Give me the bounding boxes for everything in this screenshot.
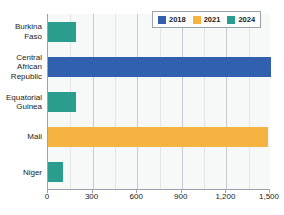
x-axis-tick	[92, 190, 93, 193]
legend-item-2021: 2021	[193, 16, 221, 24]
x-axis-tick	[181, 190, 182, 193]
bar-2024	[48, 162, 63, 182]
y-axis-label-line: Faso	[0, 32, 42, 42]
y-axis-label-line: African	[0, 62, 42, 72]
y-axis-label-line: Burkina	[0, 22, 42, 32]
legend-label: 2024	[238, 16, 255, 24]
x-axis-tick	[269, 190, 270, 193]
bar-row	[48, 49, 270, 84]
bar-2024	[48, 22, 76, 42]
y-axis-category-labels: BurkinaFasoCentralAfricanRepublicEquator…	[0, 14, 45, 190]
y-axis-label-burkina-faso: BurkinaFaso	[0, 22, 42, 41]
y-axis-label-niger: Niger	[0, 168, 42, 178]
y-axis-label-line: Equatorial	[0, 93, 42, 103]
y-axis-label-line: Niger	[0, 168, 42, 178]
x-axis-tick-label: 0	[45, 192, 49, 201]
legend-label: 2018	[169, 16, 186, 24]
legend-item-2024: 2024	[227, 16, 255, 24]
x-axis-tick-label: 1,500	[259, 192, 279, 201]
bar-2018	[48, 57, 271, 77]
bar-2024	[48, 92, 76, 112]
x-axis-tick-label: 600	[130, 192, 143, 201]
legend-item-2018: 2018	[158, 16, 186, 24]
x-axis-tick	[136, 190, 137, 193]
y-axis-label-line: Republic	[0, 72, 42, 82]
legend-swatch-icon	[193, 16, 201, 24]
y-axis-label-line: Guinea	[0, 102, 42, 112]
legend-label: 2021	[204, 16, 221, 24]
legend-swatch-icon	[227, 16, 235, 24]
y-axis-label-mali: Mali	[0, 132, 42, 142]
y-axis-label-line: Mali	[0, 132, 42, 142]
x-axis-tick-label: 1,200	[215, 192, 235, 201]
legend-swatch-icon	[158, 16, 166, 24]
bar-row	[48, 155, 270, 190]
chart-legend: 201820212024	[152, 11, 261, 28]
y-axis-label-equatorial-guinea: EquatorialGuinea	[0, 93, 42, 112]
y-axis-label-line: Central	[0, 53, 42, 63]
x-axis-tick-label: 900	[174, 192, 187, 201]
x-axis-tick	[47, 190, 48, 193]
x-axis-tick-label: 300	[85, 192, 98, 201]
chart-plot-area	[47, 14, 270, 190]
x-axis-tick	[225, 190, 226, 193]
bar-row	[48, 120, 270, 155]
bar-series-layer	[48, 14, 270, 189]
x-axis-tick-labels: 03006009001,2001,500	[0, 192, 284, 208]
bar-2021	[48, 127, 268, 147]
bar-row	[48, 84, 270, 119]
y-axis-label-central-african-republic: CentralAfricanRepublic	[0, 53, 42, 82]
cropped-title-strip	[0, 0, 284, 7]
